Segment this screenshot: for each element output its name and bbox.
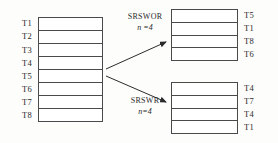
srswr-sample-table [171,82,238,134]
population-row [39,57,102,70]
population-frame-table [38,17,103,122]
srswor-unit-label: T8 [244,35,264,48]
population-unit-label: T2 [22,30,37,43]
srswr-sample-row [172,96,237,109]
srswor-sample-row [172,10,237,23]
population-row [39,70,102,83]
srswr-unit-label: T4 [244,108,264,121]
srswor-label-column: T5 T1 T8 T6 [244,9,264,61]
population-unit-label: T3 [22,43,37,56]
population-row [39,18,102,31]
srswor-sample-size: n =4 [117,23,173,33]
srswor-unit-label: T1 [244,22,264,35]
srswor-method-annotation: SRSWOR n =4 [117,12,173,33]
population-row [39,31,102,44]
population-row [39,96,102,109]
population-unit-label: T7 [22,96,37,109]
srswor-sample-row [172,23,237,36]
arrow-to-srswor-sample [106,42,166,69]
srswr-sample-size: n=4 [117,107,173,117]
population-unit-label: T5 [22,70,37,83]
srswr-sample-row [172,109,237,122]
population-label-column: T1 T2 T3 T4 T5 T6 T7 T8 [22,17,37,122]
population-row [39,109,102,121]
srswr-unit-label: T7 [244,95,264,108]
srswor-unit-label: T5 [244,9,264,22]
srswor-sample-table [171,9,238,61]
population-unit-label: T8 [22,109,37,122]
srswr-sample-row [172,83,237,96]
srswr-label-column: T4 T7 T4 T1 [244,82,264,134]
srswor-unit-label: T6 [244,48,264,61]
sampling-diagram: T1 T2 T3 T4 T5 T6 T7 T8 SRSWOR n =4 SRSW… [0,0,278,143]
srswr-unit-label: T1 [244,121,264,134]
population-row [39,44,102,57]
srswor-method-name: SRSWOR [117,12,173,22]
srswr-unit-label: T4 [244,82,264,95]
population-unit-label: T1 [22,17,37,30]
srswor-sample-row [172,36,237,49]
population-unit-label: T4 [22,56,37,69]
population-row [39,83,102,96]
srswr-method-name: SRSWR [117,96,173,106]
srswr-sample-row [172,121,237,133]
population-unit-label: T6 [22,83,37,96]
srswr-method-annotation: SRSWR n=4 [117,96,173,117]
srswor-sample-row [172,48,237,60]
